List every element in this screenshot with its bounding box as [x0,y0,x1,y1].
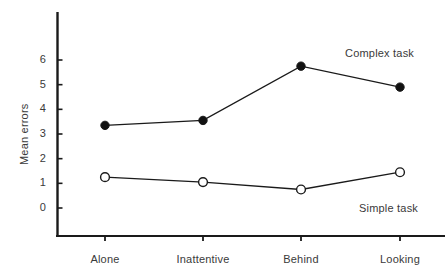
data-point-marker [101,121,109,129]
data-point-marker [297,185,306,194]
y-tick-label: 0 [22,201,46,213]
y-tick-label: 4 [22,102,46,114]
series-annotation-simple-task: Simple task [359,202,418,214]
x-category-label-alone: Alone [55,253,155,265]
series-annotation-complex-task: Complex task [345,47,414,59]
data-series-group [101,62,405,194]
y-tick-label: 1 [22,176,46,188]
data-point-marker [199,116,207,124]
y-tick-label: 2 [22,152,46,164]
data-point-marker [101,173,110,182]
series-line-complex [105,66,400,125]
data-point-marker [297,62,305,70]
x-category-label-behind: Behind [251,253,351,265]
y-tick-label: 5 [22,78,46,90]
y-tick-label: 6 [22,53,46,65]
data-point-marker [396,83,404,91]
line-chart: Mean errors 0123456 AloneInattentiveBehi… [0,0,445,278]
data-point-marker [199,178,208,187]
x-category-label-looking: Looking [350,253,445,265]
series-line-simple [105,172,400,189]
y-tick-label: 3 [22,127,46,139]
data-point-marker [396,168,405,177]
x-category-label-inattentive: Inattentive [153,253,253,265]
plot-area [0,0,445,278]
